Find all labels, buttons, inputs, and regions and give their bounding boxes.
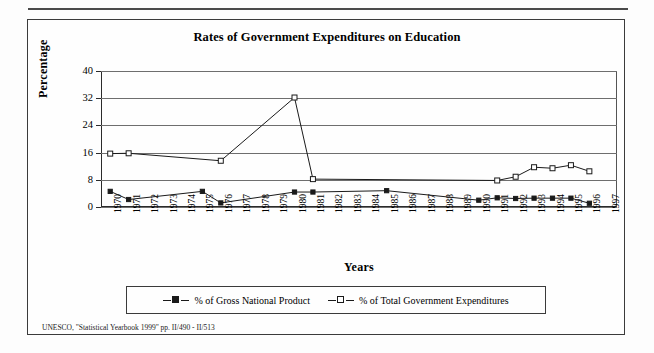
plot-area: 0816243240 19701971197219731974197519761…	[101, 71, 617, 207]
data-point-open-square	[310, 177, 315, 182]
chart-title: Rates of Government Expenditures on Educ…	[28, 30, 626, 45]
data-point-filled-square	[385, 189, 389, 193]
data-point-filled-square	[532, 196, 536, 200]
data-point-filled-square	[108, 189, 112, 193]
data-point-open-square	[532, 165, 537, 170]
data-point-filled-square	[127, 197, 131, 201]
data-point-open-square	[513, 174, 518, 179]
data-point-filled-square	[200, 189, 204, 193]
data-point-filled-square	[514, 196, 518, 200]
legend-entry-gnp: % of Gross National Product	[163, 295, 310, 306]
data-point-open-square	[587, 169, 592, 174]
data-point-filled-square	[477, 198, 481, 202]
y-tick-label: 24	[53, 120, 93, 131]
data-point-open-square	[218, 158, 223, 163]
data-point-filled-square	[495, 196, 499, 200]
y-tick-label: 8	[53, 175, 93, 186]
y-tick-mark	[96, 207, 101, 208]
series-line	[110, 98, 589, 181]
data-point-filled-square	[292, 190, 296, 194]
filled-square-marker-icon	[163, 295, 189, 305]
legend-label-gnp: % of Gross National Product	[194, 295, 310, 306]
series-layer	[101, 71, 617, 207]
data-point-filled-square	[587, 201, 591, 205]
data-point-open-square	[292, 95, 297, 100]
data-point-filled-square	[311, 190, 315, 194]
y-tick-label: 0	[53, 202, 93, 213]
figure-frame: Rates of Government Expenditures on Educ…	[27, 19, 625, 335]
data-point-open-square	[108, 151, 113, 156]
data-point-open-square	[550, 166, 555, 171]
x-axis-title: Years	[101, 260, 617, 275]
y-tick-label: 32	[53, 93, 93, 104]
page-canvas: Rates of Government Expenditures on Educ…	[0, 0, 654, 353]
data-point-filled-square	[550, 196, 554, 200]
legend-label-total-gov-exp: % of Total Government Expenditures	[359, 295, 509, 306]
legend-entry-total-gov-exp: % of Total Government Expenditures	[328, 295, 509, 306]
data-point-open-square	[126, 151, 131, 156]
data-point-open-square	[568, 163, 573, 168]
y-axis-title: Percentage	[36, 40, 51, 98]
data-point-filled-square	[569, 196, 573, 200]
y-tick-label: 16	[53, 147, 93, 158]
chart-legend: % of Gross National Product % of Total G…	[126, 286, 546, 314]
source-footnote: UNESCO, "Statistical Yearbook 1999" pp. …	[42, 323, 215, 332]
y-tick-label: 40	[53, 66, 93, 77]
top-divider-rule	[28, 8, 628, 10]
open-square-marker-icon	[328, 295, 354, 305]
data-point-open-square	[495, 178, 500, 183]
data-point-filled-square	[219, 201, 223, 205]
